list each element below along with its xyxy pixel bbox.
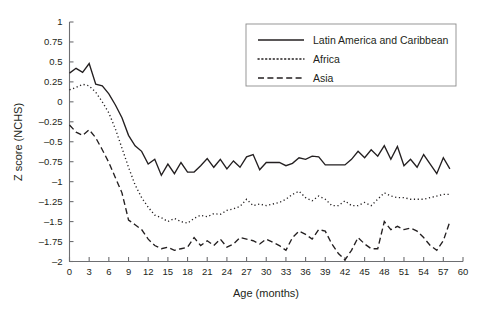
x-tick-label: 6: [106, 266, 111, 277]
legend-label-latin-america-and-caribbean: Latin America and Caribbean: [313, 34, 449, 46]
x-tick-label: 33: [281, 266, 292, 277]
chart-legend: Latin America and CaribbeanAfricaAsia: [246, 24, 456, 86]
x-tick-label: 9: [126, 266, 131, 277]
x-tick-label: 18: [182, 266, 193, 277]
legend-label-asia: Asia: [313, 72, 334, 84]
chart-figure: 10.750.50.250–0.25–0.5–0.75–1–1.25–1.5–1…: [0, 0, 485, 309]
x-axis-title: Age (months): [233, 287, 299, 299]
y-axis-title: Z score (NCHS): [12, 103, 24, 181]
x-tick-label: 39: [320, 266, 331, 277]
y-tick-label: –1.75: [39, 236, 63, 247]
x-tick-label: 21: [202, 266, 213, 277]
x-tick-label: 27: [241, 266, 252, 277]
x-tick-label: 24: [222, 266, 233, 277]
y-tick-label: 0.5: [49, 56, 62, 67]
x-tick-label: 0: [67, 266, 72, 277]
y-axis-ticks: 10.750.50.250–0.25–0.5–0.75–1–1.25–1.5–1…: [39, 16, 74, 267]
y-tick-label: –0.75: [39, 156, 63, 167]
x-tick-label: 51: [399, 266, 410, 277]
x-tick-label: 54: [418, 266, 429, 277]
y-tick-label: 0.75: [44, 36, 63, 47]
x-tick-label: 57: [438, 266, 449, 277]
y-tick-label: –1.25: [39, 196, 63, 207]
y-tick-label: –0.5: [44, 136, 63, 147]
y-tick-label: 1: [57, 16, 62, 27]
x-tick-label: 36: [300, 266, 311, 277]
x-tick-label: 15: [163, 266, 174, 277]
y-tick-label: –1: [52, 176, 63, 187]
y-tick-label: –0.25: [39, 116, 63, 127]
x-tick-label: 48: [379, 266, 390, 277]
x-tick-label: 60: [458, 266, 469, 277]
y-tick-label: 0.25: [44, 76, 63, 87]
legend-label-africa: Africa: [313, 53, 340, 65]
x-tick-label: 12: [143, 266, 154, 277]
y-tick-label: 0: [57, 96, 62, 107]
y-tick-label: –1.5: [44, 216, 63, 227]
x-tick-label: 3: [87, 266, 92, 277]
y-tick-label: –2: [52, 256, 63, 267]
x-tick-label: 30: [261, 266, 272, 277]
x-tick-label: 42: [340, 266, 351, 277]
x-tick-label: 45: [359, 266, 370, 277]
